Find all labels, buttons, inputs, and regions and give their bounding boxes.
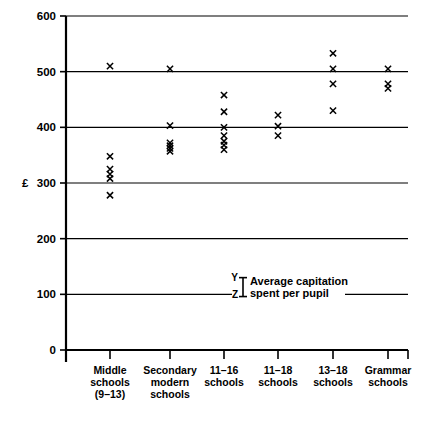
series-4: 13-18 schools: 53313-18 schools: 50513-1… xyxy=(330,50,336,114)
x-category-label-0-line-2: (9–13) xyxy=(95,388,125,400)
y-axis-ticks-group: 0100200300400500600 xyxy=(37,10,66,356)
x-category-label-1-line-0: Secondary xyxy=(143,364,197,376)
data-point: 11-18 schools: 422 xyxy=(275,112,281,118)
series-3: 11-18 schools: 42211-18 schools: 40211-1… xyxy=(275,112,281,139)
x-category-label-4-line-1: schools xyxy=(313,376,353,388)
legend-upper-marker-label: Y xyxy=(231,272,238,283)
y-tick-label-500: 500 xyxy=(37,66,56,78)
x-category-label-4-line-0: 13–18 xyxy=(318,364,347,376)
data-point: 13-18 schools: 430 xyxy=(330,108,336,114)
x-category-label-0-line-1: schools xyxy=(90,376,130,388)
x-axis-ticks-group xyxy=(110,350,408,359)
data-point: 11-16 schools: 428 xyxy=(221,109,227,115)
data-point: 11-18 schools: 402 xyxy=(275,123,281,129)
legend-text-line-1: Average capitation xyxy=(250,275,348,287)
x-category-label-2-line-1: schools xyxy=(204,376,244,388)
x-category-label-5-line-1: schools xyxy=(368,376,408,388)
data-point: 13-18 schools: 533 xyxy=(330,50,336,56)
data-point: 13-18 schools: 478 xyxy=(330,81,336,87)
data-point: Middle schools (9-13): 308 xyxy=(107,175,113,181)
series-2: 11-16 schools: 45811-16 schools: 42811-1… xyxy=(221,92,227,153)
x-axis-labels-group: Middleschools(9–13)Secondarymodernschool… xyxy=(90,364,411,400)
y-tick-label-300: 300 xyxy=(37,177,56,189)
legend-lower-marker-label: Z xyxy=(232,289,238,300)
data-point: Middle schools (9-13): 348 xyxy=(107,153,113,159)
x-category-label-3-line-1: schools xyxy=(258,376,298,388)
data-point: 11-16 schools: 458 xyxy=(221,92,227,98)
x-category-label-2-line-0: 11–16 xyxy=(210,364,239,376)
data-point: Middle schools (9-13): 510 xyxy=(107,63,113,69)
gridlines-group xyxy=(66,16,408,294)
data-point: Middle schools (9-13): 278 xyxy=(107,192,113,198)
series-5: Grammar schools: 505Grammar schools: 478… xyxy=(385,66,391,92)
y-tick-label-400: 400 xyxy=(37,121,56,133)
x-category-label-5-line-0: Grammar xyxy=(365,364,412,376)
y-axis-unit-label: £ xyxy=(22,177,29,189)
data-point: Secondary modern schools: 505 xyxy=(167,66,173,72)
data-points-group: Middle schools (9-13): 510Middle schools… xyxy=(107,50,391,198)
capitation-scatter-chart: 0100200300400500600£Middleschools(9–13)S… xyxy=(0,0,435,431)
data-point: 11-16 schools: 360 xyxy=(221,147,227,153)
x-category-label-1-line-2: schools xyxy=(150,388,190,400)
y-tick-label-200: 200 xyxy=(37,233,56,245)
x-category-label-3-line-0: 11–18 xyxy=(264,364,293,376)
data-point: 11-18 schools: 385 xyxy=(275,133,281,139)
legend-group: YZAverage capitationspent per pupil xyxy=(231,272,348,300)
x-category-label-0-line-0: Middle xyxy=(93,364,126,376)
data-point: Grammar schools: 505 xyxy=(385,66,391,72)
y-tick-label-0: 0 xyxy=(50,344,56,356)
y-tick-label-100: 100 xyxy=(37,288,56,300)
data-point: 11-16 schools: 385 xyxy=(221,133,227,139)
y-tick-label-600: 600 xyxy=(37,10,56,22)
data-point: 13-18 schools: 505 xyxy=(330,66,336,72)
x-category-label-1-line-1: modern xyxy=(151,376,190,388)
series-1: Secondary modern schools: 505Secondary m… xyxy=(167,66,173,155)
legend-text-line-2: spent per pupil xyxy=(250,287,329,299)
series-0: Middle schools (9-13): 510Middle schools… xyxy=(107,63,113,198)
chart-canvas: 0100200300400500600£Middleschools(9–13)S… xyxy=(0,0,435,431)
data-point: Grammar schools: 470 xyxy=(385,85,391,91)
